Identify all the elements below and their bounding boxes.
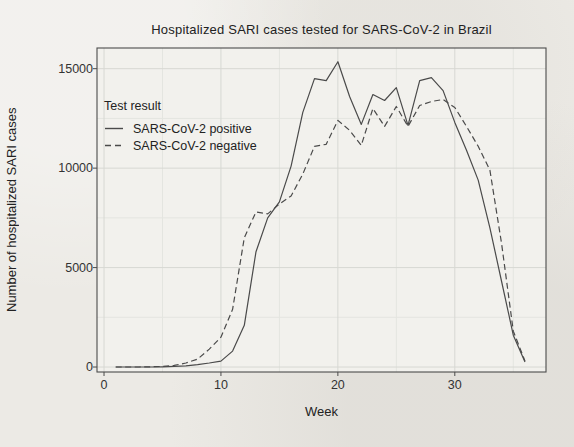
x-tick-label: 10 (201, 378, 241, 392)
legend-label: SARS-CoV-2 positive (133, 122, 252, 136)
legend-entry: SARS-CoV-2 positive (104, 120, 257, 137)
chart-figure: Hospitalized SARI cases tested for SARS-… (0, 0, 574, 447)
x-tick-label: 30 (435, 378, 475, 392)
x-tick-label: 0 (84, 378, 124, 392)
legend: Test result SARS-CoV-2 positiveSARS-CoV-… (104, 99, 257, 154)
legend-label: SARS-CoV-2 negative (133, 139, 257, 153)
legend-entry: SARS-CoV-2 negative (104, 137, 257, 154)
legend-title: Test result (104, 99, 257, 113)
dashed-line-key-icon (104, 143, 124, 148)
y-tick-label: 0 (38, 360, 93, 374)
x-tick-label: 20 (318, 378, 358, 392)
y-tick-label: 5000 (38, 261, 93, 275)
solid-line-key-icon (104, 126, 124, 131)
y-tick-label: 15000 (38, 62, 93, 76)
y-tick-label: 10000 (38, 161, 93, 175)
legend-entries: SARS-CoV-2 positiveSARS-CoV-2 negative (104, 120, 257, 154)
plot-panel (97, 48, 546, 372)
